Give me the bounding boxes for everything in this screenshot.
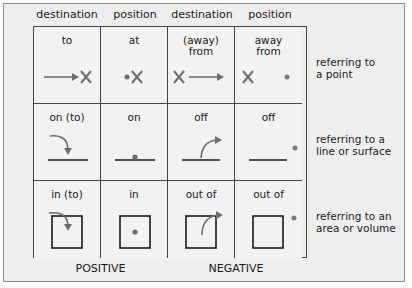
dot-off-line-icon <box>235 104 302 181</box>
arrow-to-x-icon <box>34 27 101 104</box>
curved-arrow-off-line-icon <box>168 104 235 181</box>
curved-arrow-out-of-box-icon <box>168 181 235 257</box>
row-label-line-surface: referring to a line or surface <box>316 134 391 157</box>
row-label-area-volume: referring to an area or volume <box>316 211 396 234</box>
cell-to: to <box>34 27 101 104</box>
column-header-destination-positive: destination <box>33 8 101 21</box>
curved-arrow-onto-line-icon <box>34 104 101 181</box>
cell-away-from-destination: (away) from <box>168 27 235 104</box>
cell-out-of-position: out of <box>235 181 302 258</box>
cell-in-to: in (to) <box>34 181 101 258</box>
row-label-point: referring to a point <box>316 57 375 80</box>
cell-in: in <box>101 181 168 258</box>
cell-on-to: on (to) <box>34 104 101 181</box>
dot-in-box-icon <box>101 181 168 257</box>
curved-arrow-into-box-icon <box>34 181 101 257</box>
footer-positive: POSITIVE <box>33 262 168 275</box>
cell-on: on <box>101 104 168 181</box>
x-dot-apart-icon <box>235 27 302 104</box>
cell-off-position: off <box>235 104 302 181</box>
column-header-position-positive: position <box>101 8 169 21</box>
cell-off-destination: off <box>168 104 235 181</box>
footer-negative: NEGATIVE <box>168 262 304 275</box>
cell-at: at <box>101 27 168 104</box>
x-arrow-away-icon <box>168 27 235 104</box>
dot-on-line-icon <box>101 104 168 181</box>
dot-at-x-icon <box>101 27 168 104</box>
preposition-grid: to at (away) from away from <box>33 26 307 258</box>
column-header-position-negative: position <box>236 8 304 21</box>
cell-out-of-destination: out of <box>168 181 235 258</box>
cell-away-from-position: away from <box>235 27 302 104</box>
dot-outside-box-icon <box>235 181 302 257</box>
column-header-destination-negative: destination <box>168 8 236 21</box>
